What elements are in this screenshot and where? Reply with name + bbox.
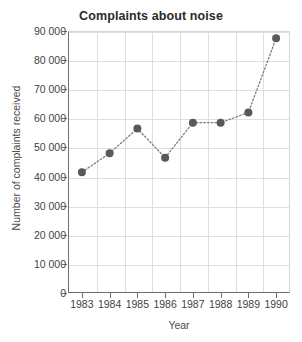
gridline-vertical — [180, 32, 181, 292]
gridline-horizontal — [69, 236, 289, 237]
gridline-vertical — [152, 32, 153, 292]
gridline-horizontal — [69, 61, 289, 62]
y-tick-label: 20 000 — [6, 229, 66, 241]
y-tick-label: 0 — [6, 287, 66, 299]
y-tick-label: 90 000 — [6, 25, 66, 37]
gridline-horizontal — [69, 178, 289, 179]
gridline-vertical — [263, 32, 264, 292]
gridline-horizontal — [69, 32, 289, 33]
x-tick-label: 1990 — [256, 298, 296, 310]
y-tick-label: 80 000 — [6, 54, 66, 66]
gridline-vertical — [236, 32, 237, 292]
y-tick-label: 40 000 — [6, 171, 66, 183]
gridline-horizontal — [69, 207, 289, 208]
y-tick-label: 70 000 — [6, 83, 66, 95]
chart-title: Complaints about noise — [0, 9, 302, 23]
noise-complaints-line-chart: Complaints about noise Number of complai… — [0, 0, 302, 342]
gridline-vertical — [208, 32, 209, 292]
y-tick-label: 60 000 — [6, 112, 66, 124]
gridline-horizontal — [69, 119, 289, 120]
x-axis-title: Year — [68, 319, 290, 331]
y-tick-label: 30 000 — [6, 200, 66, 212]
gridline-vertical — [97, 32, 98, 292]
y-tick-label: 10 000 — [6, 258, 66, 270]
gridline-horizontal — [69, 148, 289, 149]
gridline-vertical — [125, 32, 126, 292]
y-tick-label: 50 000 — [6, 141, 66, 153]
plot-area — [68, 31, 290, 293]
gridline-horizontal — [69, 265, 289, 266]
gridline-horizontal — [69, 90, 289, 91]
